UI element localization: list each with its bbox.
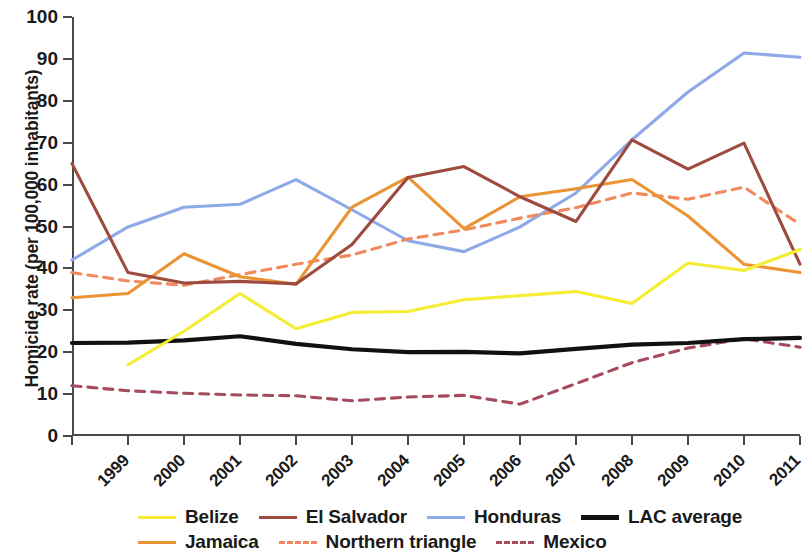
y-tick-label: 100 bbox=[26, 6, 58, 28]
legend-item-belize[interactable]: Belize bbox=[138, 506, 239, 528]
x-tick bbox=[631, 436, 633, 445]
x-tick bbox=[799, 436, 801, 445]
x-tick bbox=[295, 436, 297, 445]
x-tick-label: 2006 bbox=[486, 451, 526, 491]
y-tick bbox=[63, 58, 72, 60]
x-tick bbox=[239, 436, 241, 445]
legend-item-honduras[interactable]: Honduras bbox=[427, 506, 561, 528]
legend-swatch-honduras bbox=[427, 516, 465, 519]
legend-label-honduras: Honduras bbox=[474, 506, 561, 528]
legend-item-el-salvador[interactable]: El Salvador bbox=[259, 506, 407, 528]
series-line-lac-average bbox=[72, 336, 800, 353]
y-tick-label: 70 bbox=[37, 132, 58, 154]
legend-item-lac-average[interactable]: LAC average bbox=[581, 506, 742, 528]
x-tick-label: 2010 bbox=[710, 451, 750, 491]
y-tick-label: 80 bbox=[37, 90, 58, 112]
y-tick-label: 50 bbox=[37, 216, 58, 238]
legend-item-northern-triangle[interactable]: Northern triangle bbox=[279, 531, 477, 553]
legend-row: BelizeEl SalvadorHondurasLAC average bbox=[138, 505, 762, 529]
series-lines bbox=[72, 17, 800, 436]
chart-legend: BelizeEl SalvadorHondurasLAC averageJama… bbox=[118, 505, 798, 555]
legend-row: JamaicaNorthern triangleMexico bbox=[138, 530, 627, 554]
legend-label-mexico: Mexico bbox=[543, 531, 606, 553]
legend-swatch-jamaica bbox=[138, 541, 176, 544]
x-tick-label: 2004 bbox=[374, 451, 414, 491]
x-tick-label: 2002 bbox=[262, 451, 302, 491]
x-tick-label: 2003 bbox=[318, 451, 358, 491]
homicide-rate-line-chart: Homicide rate (per 100,000 inhabitants) … bbox=[0, 0, 807, 555]
series-line-mexico bbox=[72, 339, 800, 404]
legend-item-mexico[interactable]: Mexico bbox=[496, 531, 606, 553]
x-tick-label: 2000 bbox=[150, 451, 190, 491]
legend-swatch-lac-average bbox=[581, 515, 619, 520]
x-tick-label: 2011 bbox=[765, 451, 804, 490]
x-tick-label: 2007 bbox=[542, 451, 582, 491]
y-tick bbox=[63, 184, 72, 186]
x-tick-label: 2005 bbox=[430, 451, 470, 491]
plot-area: 0102030405060708090100 19992000200120022… bbox=[72, 17, 800, 436]
x-tick bbox=[687, 436, 689, 445]
x-tick-label: 2008 bbox=[598, 451, 638, 491]
x-tick bbox=[183, 436, 185, 445]
series-line-honduras bbox=[72, 53, 800, 260]
x-tick-label: 2009 bbox=[654, 451, 694, 491]
legend-item-jamaica[interactable]: Jamaica bbox=[138, 531, 259, 553]
y-tick bbox=[63, 309, 72, 311]
x-tick bbox=[463, 436, 465, 445]
x-tick bbox=[351, 436, 353, 445]
legend-swatch-mexico bbox=[496, 541, 534, 544]
y-tick-label: 40 bbox=[37, 257, 58, 279]
x-tick bbox=[575, 436, 577, 445]
y-tick bbox=[63, 226, 72, 228]
y-tick bbox=[63, 267, 72, 269]
x-tick-label: 1999 bbox=[94, 451, 134, 491]
legend-label-belize: Belize bbox=[185, 506, 239, 528]
legend-swatch-northern-triangle bbox=[279, 541, 317, 544]
y-tick-label: 60 bbox=[37, 174, 58, 196]
y-tick bbox=[63, 351, 72, 353]
y-tick-label: 0 bbox=[47, 425, 58, 447]
y-tick-label: 90 bbox=[37, 48, 58, 70]
x-tick bbox=[127, 436, 129, 445]
legend-swatch-belize bbox=[138, 516, 176, 519]
legend-label-jamaica: Jamaica bbox=[185, 531, 259, 553]
legend-label-el-salvador: El Salvador bbox=[306, 506, 407, 528]
y-tick bbox=[63, 393, 72, 395]
legend-label-lac-average: LAC average bbox=[628, 506, 742, 528]
y-tick bbox=[63, 142, 72, 144]
x-tick bbox=[71, 436, 73, 445]
y-tick-label: 10 bbox=[37, 383, 58, 405]
legend-label-northern-triangle: Northern triangle bbox=[326, 531, 477, 553]
series-line-belize bbox=[128, 250, 800, 365]
x-tick bbox=[519, 436, 521, 445]
y-tick-label: 20 bbox=[37, 341, 58, 363]
x-tick-label: 2001 bbox=[206, 451, 246, 491]
y-tick bbox=[63, 16, 72, 18]
legend-swatch-el-salvador bbox=[259, 516, 297, 519]
y-tick bbox=[63, 100, 72, 102]
x-tick bbox=[743, 436, 745, 445]
series-line-jamaica bbox=[72, 177, 800, 298]
x-tick bbox=[407, 436, 409, 445]
y-tick-label: 30 bbox=[37, 299, 58, 321]
